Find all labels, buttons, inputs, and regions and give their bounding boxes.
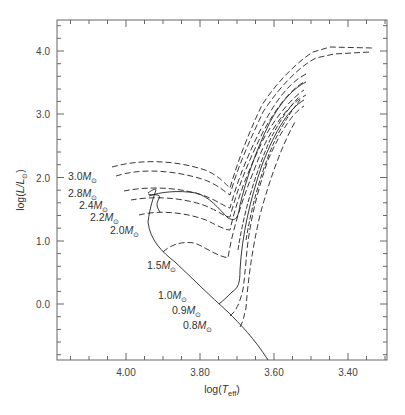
x-tick-label: 3.80: [190, 367, 210, 378]
x-axis-label: log(Teff): [204, 383, 240, 398]
x-tick-label: 3.60: [264, 367, 284, 378]
mass-label-0.8: 0.8M⊙: [183, 319, 212, 333]
mass-label-3.0: 3.0M⊙: [68, 170, 97, 184]
y-axis-label: log(L/L⊙): [14, 169, 28, 211]
track-2.2: [131, 82, 304, 217]
mass-label-0.9: 0.9M⊙: [172, 304, 201, 318]
y-axis-ticks: [57, 26, 387, 355]
y-tick-label: 2.0: [36, 173, 50, 184]
track-2.4: [124, 74, 306, 208]
x-tick-label: 3.40: [338, 367, 358, 378]
y-tick-label: 3.0: [36, 109, 50, 120]
zams-line: [148, 189, 268, 360]
x-tick-label: 4.00: [116, 367, 136, 378]
track-2.0: [139, 90, 304, 230]
mass-label-2.2: 2.2M⊙: [90, 211, 119, 225]
mass-label-2.0: 2.0M⊙: [110, 224, 139, 238]
track-1.0: [219, 100, 304, 304]
track-0.9: [230, 106, 304, 316]
plot-frame: [57, 20, 387, 360]
track-2.8: [116, 52, 370, 195]
evolutionary-tracks: [112, 47, 372, 360]
mass-label-1.0: 1.0M⊙: [158, 289, 187, 303]
hr-diagram: 4.00 3.80 3.60 3.40 4.0 3.0 2.0 1.0 0.0 …: [0, 0, 405, 415]
y-tick-label: 1.0: [36, 236, 50, 247]
y-tick-label: 0.0: [36, 299, 50, 310]
track-3.0: [112, 47, 372, 188]
mass-label-1.5: 1.5M⊙: [147, 259, 176, 273]
y-tick-label: 4.0: [36, 46, 50, 57]
x-axis-ticks: [71, 20, 386, 360]
